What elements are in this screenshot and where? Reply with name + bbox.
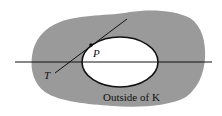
region-label: Outside of K [103, 91, 160, 103]
point-p-label: P [92, 47, 100, 59]
diagram-canvas: P T Outside of K [0, 0, 222, 116]
tangent-t-label: T [44, 69, 51, 81]
